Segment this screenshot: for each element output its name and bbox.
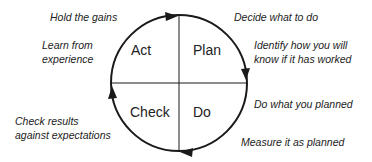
arrow-down-icon xyxy=(241,68,250,80)
quadrant-do: Do xyxy=(193,104,211,120)
arrow-right-icon xyxy=(165,12,178,21)
quadrant-plan: Plan xyxy=(193,42,221,58)
note-check-1: Check results xyxy=(15,115,79,128)
note-learn-2: experience xyxy=(42,53,93,66)
note-decide: Decide what to do xyxy=(234,11,318,24)
pdca-diagram: Act Plan Check Do Hold the gains Learn f… xyxy=(0,0,372,162)
note-do-what: Do what you planned xyxy=(254,98,353,111)
arrow-up-icon xyxy=(108,86,117,99)
quadrant-act: Act xyxy=(131,42,151,58)
note-check-2: against expectations xyxy=(15,129,111,142)
note-measure: Measure it as planned xyxy=(241,136,344,149)
quadrant-check: Check xyxy=(130,104,170,120)
note-identify-2: know if it has worked xyxy=(254,53,351,66)
note-learn-1: Learn from xyxy=(42,39,93,52)
note-hold-gains: Hold the gains xyxy=(50,11,117,24)
arrow-left-icon xyxy=(180,148,193,157)
note-identify-1: Identify how you will xyxy=(254,39,347,52)
